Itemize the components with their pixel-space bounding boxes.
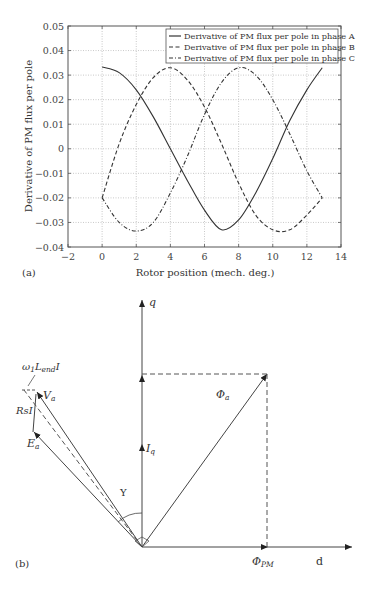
y-tick-label: 0.01 bbox=[43, 119, 64, 130]
chart-curves bbox=[102, 67, 322, 232]
rsi-label: RsI bbox=[15, 405, 34, 416]
y-tick-label: 0.03 bbox=[43, 70, 64, 81]
rsi-segment bbox=[33, 394, 36, 432]
gamma-label: Y bbox=[119, 487, 127, 498]
x-tick-label: 0 bbox=[99, 251, 105, 262]
y-tick-label: 0 bbox=[58, 143, 64, 154]
d-axis-label: d bbox=[316, 555, 323, 568]
wl-label: ω1LendI bbox=[22, 361, 61, 374]
legend: Derivative of PM flux per pole in phase … bbox=[166, 29, 355, 63]
va-label: Va bbox=[43, 389, 55, 403]
x-axis-label: Rotor position (mech. deg.) bbox=[136, 267, 275, 278]
x-tick-label: 6 bbox=[201, 251, 207, 262]
q-mid-arrowhead bbox=[139, 375, 145, 382]
legend-entry-b: Derivative of PM flux per pole in phase … bbox=[184, 42, 355, 52]
y-axis-label: Derivative of PM flux per pole bbox=[23, 60, 34, 212]
phi-pm-label: ΦPM bbox=[252, 555, 274, 569]
phi-a-label: Φa bbox=[216, 388, 230, 402]
y-tick-label: −0.04 bbox=[35, 242, 64, 253]
phi-a-vector bbox=[142, 374, 267, 547]
panel-a-label: (a) bbox=[22, 267, 36, 278]
iq-arrowhead bbox=[139, 444, 145, 451]
series-line-b bbox=[102, 68, 322, 232]
y-tick-label: −0.03 bbox=[35, 217, 64, 228]
y-tick-label: 0.05 bbox=[43, 21, 64, 32]
legend-entry-c: Derivative of PM flux per pole in phase … bbox=[184, 53, 355, 63]
x-tick-label: 10 bbox=[267, 251, 279, 262]
x-tick-label: 12 bbox=[301, 251, 313, 262]
x-tick-label: 14 bbox=[335, 251, 347, 262]
figure: −202468101214−0.04−0.03−0.02−0.0100.010.… bbox=[0, 0, 368, 590]
legend-entry-a: Derivative of PM flux per pole in phase … bbox=[184, 31, 355, 41]
va-vector bbox=[37, 392, 142, 547]
x-tick-label: −2 bbox=[61, 251, 75, 262]
series-line-c bbox=[102, 67, 322, 231]
y-tick-label: 0.04 bbox=[43, 45, 64, 56]
y-tick-label: −0.02 bbox=[35, 192, 64, 203]
q-axis-label: q bbox=[149, 296, 156, 309]
y-tick-label: 0.02 bbox=[43, 94, 64, 105]
wl-leader-line bbox=[28, 375, 35, 386]
x-tick-label: 4 bbox=[167, 251, 173, 262]
x-tick-label: 2 bbox=[133, 251, 139, 262]
y-tick-label: −0.01 bbox=[35, 168, 64, 179]
iq-label: Iq bbox=[145, 442, 155, 456]
x-tick-label: 8 bbox=[236, 251, 242, 262]
series-line-a bbox=[102, 67, 322, 230]
phasor-diagram: q d Φa ΦPM Iq Va Ea RsI ω1LendI Y (b) bbox=[15, 296, 352, 569]
current-dashed-line bbox=[24, 390, 142, 547]
panel-b-label: (b) bbox=[15, 558, 29, 569]
ea-label: Ea bbox=[26, 437, 40, 451]
